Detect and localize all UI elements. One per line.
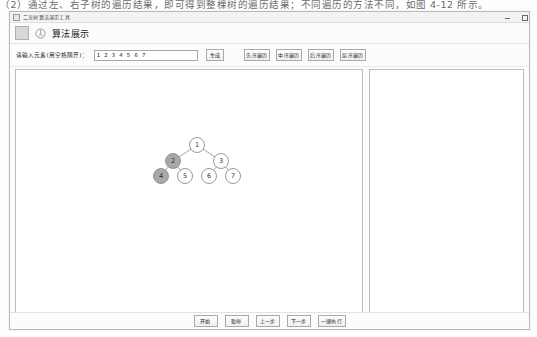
application-window: 二叉树算法演示工具 算法展示 请输入元素(用空格隔开)： 1 2 3 4 5 6… — [9, 11, 530, 330]
control-bar: 开始 暂停 上一步 下一步 一键执行 — [10, 312, 529, 329]
next-step-button[interactable]: 下一步 — [287, 315, 311, 327]
levelorder-traversal-button[interactable]: 层序遍历 — [340, 49, 366, 61]
window-title: 二叉树算法演示工具 — [23, 12, 70, 22]
tree-logo-icon — [35, 28, 46, 39]
close-icon[interactable] — [520, 14, 527, 21]
tree-node-label: 4 — [159, 172, 163, 180]
page-root: （2）通过左、右子树的遍历结果，即可得到整棵树的遍历结果；不同遍历的方法不同，如… — [0, 0, 537, 337]
output-panel[interactable] — [369, 69, 524, 313]
binary-tree-graphic: 1234567 — [16, 70, 363, 313]
tree-node[interactable]: 1 — [190, 138, 205, 153]
tree-node-label: 7 — [231, 172, 235, 180]
pause-button[interactable]: 暂停 — [225, 315, 249, 327]
elements-input[interactable]: 1 2 3 4 5 6 7 — [94, 50, 198, 61]
minimize-icon[interactable] — [504, 14, 511, 21]
document-text: （2）通过左、右子树的遍历结果，即可得到整棵树的遍历结果；不同遍历的方法不同，如… — [0, 0, 537, 10]
tree-node-label: 2 — [171, 157, 175, 165]
app-square-icon[interactable] — [15, 26, 29, 40]
tree-canvas[interactable]: 1234567 — [15, 69, 363, 313]
window-controls — [504, 12, 527, 22]
window-icon — [13, 14, 20, 21]
app-toolbar: 算法展示 — [10, 23, 529, 44]
tree-node-label: 1 — [195, 141, 199, 149]
postorder-traversal-button[interactable]: 后序遍历 — [308, 49, 334, 61]
start-button[interactable]: 开始 — [194, 315, 218, 327]
tree-node-label: 5 — [183, 172, 187, 180]
inorder-traversal-button[interactable]: 中序遍历 — [276, 49, 302, 61]
tree-node-label: 3 — [219, 157, 223, 165]
tree-node[interactable]: 3 — [214, 154, 229, 169]
window-body: 1234567 — [10, 65, 529, 329]
input-row: 请输入元素(用空格隔开)： 1 2 3 4 5 6 7 生成 先序遍历 中序遍历… — [10, 44, 529, 67]
preorder-traversal-button[interactable]: 先序遍历 — [244, 49, 270, 61]
tree-node[interactable]: 4 — [154, 169, 169, 184]
window-titlebar[interactable]: 二叉树算法演示工具 — [10, 12, 529, 23]
traversal-button-group: 先序遍历 中序遍历 后序遍历 层序遍历 — [244, 49, 366, 61]
tree-node[interactable]: 6 — [202, 169, 217, 184]
prev-step-button[interactable]: 上一步 — [256, 315, 280, 327]
document-text-line: （2）通过左、右子树的遍历结果，即可得到整棵树的遍历结果；不同遍历的方法不同，如… — [0, 0, 537, 10]
app-title: 算法展示 — [52, 27, 90, 40]
elements-input-label: 请输入元素(用空格隔开)： — [16, 51, 88, 59]
tree-node[interactable]: 7 — [226, 169, 241, 184]
tree-node[interactable]: 5 — [178, 169, 193, 184]
generate-button[interactable]: 生成 — [206, 49, 224, 61]
tree-node-label: 6 — [207, 172, 211, 180]
run-all-button[interactable]: 一键执行 — [318, 315, 346, 327]
tree-node[interactable]: 2 — [166, 154, 181, 169]
